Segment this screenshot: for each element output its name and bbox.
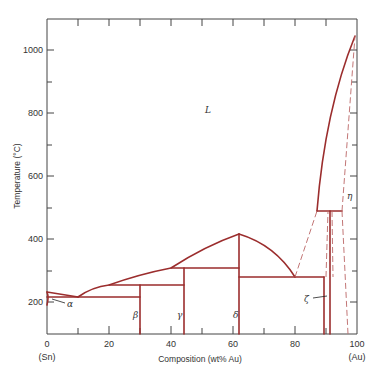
label-beta: β	[132, 310, 138, 320]
y-tick-200: 200	[28, 297, 43, 307]
label-liquid: L	[204, 105, 211, 115]
label-delta: δ	[233, 310, 238, 320]
y-tick-800: 800	[28, 108, 43, 118]
y-axis-title: Temperature (°C)	[12, 143, 22, 208]
phase-boundaries	[47, 36, 355, 334]
label-alpha: α	[67, 299, 73, 309]
x-end-label-sn: (Sn)	[38, 352, 55, 362]
x-tick-20: 20	[104, 339, 114, 349]
y-ticks	[47, 19, 357, 334]
x-end-label-au: (Au)	[348, 352, 365, 362]
x-tick-40: 40	[166, 339, 176, 349]
y-tick-600: 600	[28, 171, 43, 181]
x-tick-60: 60	[228, 339, 238, 349]
y-tick-1000: 1000	[23, 45, 43, 55]
label-zeta: ζ	[304, 294, 310, 304]
x-tick-100: 100	[349, 339, 364, 349]
y-tick-400: 400	[28, 234, 43, 244]
label-gamma: γ	[177, 310, 183, 320]
plot-frame	[47, 19, 357, 334]
x-tick-80: 80	[290, 339, 300, 349]
label-eta: η	[347, 191, 353, 201]
x-tick-0: 0	[44, 339, 49, 349]
dashed-boundaries	[295, 36, 355, 334]
phase-diagram: 200 400 600 800 1000 0 20 40 60 80 100 (…	[0, 0, 380, 377]
x-axis-title: Composition (wt% Au)	[158, 354, 242, 364]
